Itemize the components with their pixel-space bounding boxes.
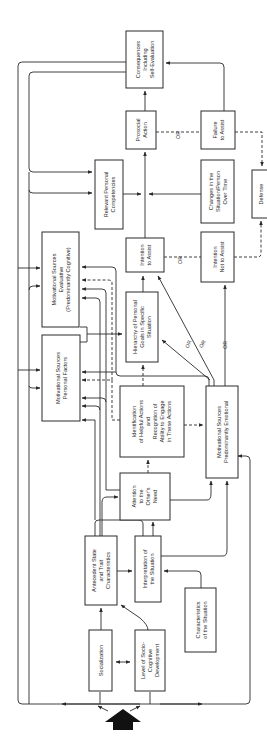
box-label: of the Situation [202,601,208,638]
input-arrow-icon [105,709,141,730]
box-intention-not-to-assist: Intention Not to Assist [201,232,234,282]
or-label-goal-2: OR [198,339,207,349]
box-label: to Assist [146,244,152,265]
box-label: Self-Evaluation [149,41,155,79]
box-socio-cognitive: Level of Socio- Cognitive Development [135,630,165,691]
box-label: Failure [212,121,218,138]
box-label: the Situation [149,553,155,584]
box-label: Recognition of [152,403,158,439]
box-label: Interpretation of [142,549,148,589]
box-motivational-evaluative: Motivational Sources Evaluative (Predomi… [42,232,79,327]
box-intention-to-assist: Intention to Assist [126,238,164,272]
box-failure-to-assist: Failure to Assist [201,111,235,149]
box-label: Motivational Sources [55,352,61,404]
box-label: Personal Factors [62,357,68,399]
box-identification-actions: Identification of Helpful Actions and Re… [120,386,184,457]
or-label-intention: OR [177,256,183,264]
prosocial-behavior-model-diagram: OR OR OR OR OR Consequences Including Se… [0,0,267,755]
box-label: Hierarchy of Personal [132,300,138,354]
box-label: in These Actions [166,401,172,442]
box-relevant-competencies: Relevant Personal Competencies [95,160,123,229]
box-label: Predominantly Emotional [223,401,229,463]
box-label: Consequences [135,41,141,79]
box-label: Goals in Specific [139,306,145,348]
or-label-action: OR [175,131,181,139]
box-interpretation-situation: Interpretation of the Situation [135,536,161,602]
box-label: Characteristics [105,552,111,589]
box-label: Cognitive [147,649,153,672]
box-label: Level of Socio- [140,642,146,679]
box-label: Characteristics [195,601,201,638]
box-label: Ability to Engage [159,401,165,443]
box-label: Need [152,490,158,503]
box-label: Development [154,644,160,677]
box-label: Evaluative [58,267,64,293]
box-consequences: Consequences Including Self-Evaluation [126,31,163,88]
box-antecedent-state: Antecedent State and Trait Characteristi… [85,536,117,605]
box-label: Situation [146,316,152,338]
box-socialization: Socialization [89,630,112,691]
box-label: Intention [139,244,145,265]
box-label: (Predominantly Cognitive) [65,247,71,311]
box-label: Antecedent State [91,549,97,592]
box-attention-need: Attention to the Other's Need [120,473,170,520]
box-label: Other's [145,487,151,505]
box-label: to the [138,490,144,504]
box-label: Relevant Personal [103,172,109,218]
box-characteristics-situation: Characteristics of the Situation [185,588,216,652]
box-changes-situation: Changes in the Situation/Person Over Tim… [201,160,234,223]
box-label: Identification [131,406,137,437]
box-prosocial-action: Prosocial Action [126,111,156,149]
box-motivational-personal: Motivational Sources Personal Factors [42,335,80,421]
box-label: Socialization [98,645,104,676]
box-label: Action [142,122,148,138]
box-label: Including [142,48,148,70]
box-label: Changes in the [208,173,214,211]
box-defense: Defense [252,170,267,218]
box-label: to Assist [219,119,225,140]
box-label: Defense [258,184,264,205]
box-label: Attention [131,485,137,507]
box-label: Over Time [222,179,228,205]
box-label: of Helpful Actions [138,400,144,443]
box-label: Not to Assist [219,241,225,273]
box-label: and [145,417,151,426]
box-motivational-emotional: Motivational Sources Predominantly Emoti… [206,386,238,478]
box-label: Intention [212,246,218,267]
or-label-emotional: OR [222,341,228,349]
box-label: and Trait [98,559,104,581]
box-label: Competencies [110,176,116,212]
box-label: Situation/Person [215,171,221,212]
or-label-goal-1: OR [184,339,193,349]
box-label: Prosocial [135,118,141,141]
box-label: Motivational Sources [216,406,222,458]
box-label: Motivational Sources [51,253,57,305]
box-hierarchy-goals: Hierarchy of Personal Goals in Specific … [126,292,158,362]
